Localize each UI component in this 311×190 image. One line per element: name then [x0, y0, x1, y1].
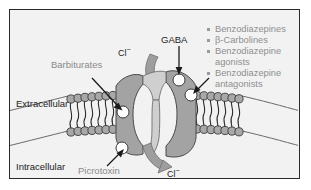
legend-item-label: Benzodiazepine [215, 46, 281, 56]
legend-item-benzodiazepines: Benzodiazepines [206, 24, 300, 35]
legend-item-benzodiazepine-antagonists: Benzodiazepine [206, 68, 300, 79]
legend-item-agonists-continuation: agonists [206, 57, 300, 68]
figure-frame: Extracellular Intracellular Barbiturates… [9, 9, 300, 179]
legend-item-label: Benzodiazepine [215, 68, 281, 78]
chloride-influx-label: Cl− [118, 46, 131, 58]
legend-item-beta-carbolines: β-Carbolines [206, 35, 300, 46]
chloride-efflux-charge: − [176, 167, 180, 174]
chloride-influx-text: Cl [118, 48, 127, 58]
ligand-legend-list: Benzodiazepines β-Carbolines Benzodiazep… [206, 24, 300, 90]
bullet-icon [207, 72, 210, 75]
bullet-icon [207, 39, 210, 42]
chloride-efflux-label: Cl− [167, 167, 180, 179]
chloride-influx-charge: − [127, 46, 131, 53]
figure-page: Extracellular Intracellular Barbiturates… [0, 0, 311, 190]
legend-item-antagonists-continuation: antagonists [206, 79, 300, 90]
barbiturates-label: Barbiturates [51, 60, 102, 70]
bullet-icon [207, 28, 210, 31]
extracellular-label: Extracellular [16, 99, 68, 109]
picrotoxin-label: Picrotoxin [78, 166, 120, 176]
gaba-label: GABA [161, 35, 187, 45]
legend-item-label: Benzodiazepines [215, 24, 286, 34]
legend-item-label: β-Carbolines [215, 35, 268, 45]
intracellular-label: Intracellular [16, 162, 65, 172]
bullet-icon [207, 50, 210, 53]
chloride-efflux-text: Cl [167, 169, 176, 179]
binding-site-gaba [173, 74, 185, 86]
legend-item-benzodiazepine-agonists: Benzodiazepine [206, 46, 300, 57]
